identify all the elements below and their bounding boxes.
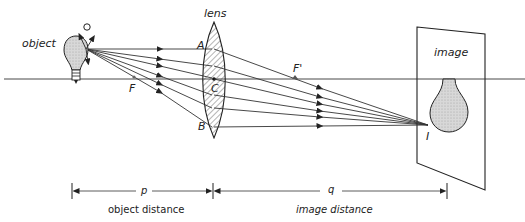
focus-F-prime-label: F'	[293, 62, 302, 75]
p-label: p	[140, 185, 147, 196]
object-label: object	[22, 37, 57, 50]
point-C-label: C	[211, 82, 219, 95]
focal-point-F	[132, 75, 135, 78]
lens-label: lens	[204, 7, 227, 20]
object-distance-label: object distance	[108, 204, 184, 215]
point-A-label: A	[196, 39, 205, 52]
refracted-rays	[214, 49, 428, 127]
image-distance-label: image distance	[296, 204, 373, 215]
image-label: image	[434, 46, 468, 59]
image-point-label: I	[426, 130, 429, 143]
q-label: q	[328, 184, 334, 195]
image-distance-dimension: q image distance	[217, 183, 447, 215]
focus-F-label: F	[129, 82, 136, 95]
incident-rays	[86, 49, 212, 127]
object-bulb	[64, 24, 93, 84]
source-point-O	[84, 24, 90, 30]
point-B-label: B	[198, 120, 206, 133]
lens	[203, 22, 226, 138]
focal-point-F-prime	[292, 75, 298, 79]
object-distance-dimension: p object distance	[72, 183, 213, 215]
lens-diagram: object lens image A B C F F' I p object …	[0, 0, 525, 222]
